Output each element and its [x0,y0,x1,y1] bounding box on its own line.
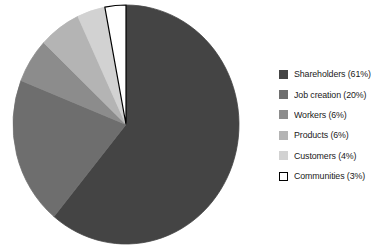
legend-item-label: Communities (3%) [294,171,365,181]
chart-legend: Shareholders (61%)Job creation (20%)Work… [279,64,383,186]
legend-swatch-icon [279,70,288,79]
legend-item-label: Job creation (20%) [294,90,366,100]
legend-swatch-icon [279,110,288,119]
legend-item[interactable]: Customers (4%) [279,146,383,166]
legend-swatch-icon [279,151,288,160]
legend-swatch-icon [279,172,288,181]
legend-swatch-icon [279,131,288,140]
legend-item-label: Customers (4%) [294,151,356,161]
legend-item[interactable]: Workers (6%) [279,105,383,125]
legend-item-label: Workers (6%) [294,110,347,120]
legend-item[interactable]: Shareholders (61%) [279,64,383,84]
legend-item[interactable]: Job creation (20%) [279,84,383,104]
pie-chart-svg [10,4,242,245]
legend-item[interactable]: Products (6%) [279,125,383,145]
legend-swatch-icon [279,90,288,99]
pie-slice-group [13,5,239,244]
legend-item-label: Shareholders (61%) [294,69,371,79]
legend-item-label: Products (6%) [294,130,349,140]
pie-chart-figure: Shareholders (61%)Job creation (20%)Work… [0,0,387,249]
pie-chart-plot [10,4,242,245]
legend-item[interactable]: Communities (3%) [279,166,383,186]
